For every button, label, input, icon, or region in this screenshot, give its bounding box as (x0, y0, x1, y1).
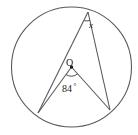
central-angle-value: 84 (62, 83, 72, 94)
central-angle-label: 84° (62, 83, 76, 94)
center-point-label: O (66, 58, 73, 68)
degree-symbol: ° (74, 82, 77, 90)
geometry-figure: x O 84° (0, 0, 138, 135)
central-angle-arc-mark (66, 74, 78, 76)
inscribed-angle-label: x (89, 21, 93, 30)
chord-top-to-left (38, 12, 88, 113)
radius-center-to-right (72, 67, 111, 110)
